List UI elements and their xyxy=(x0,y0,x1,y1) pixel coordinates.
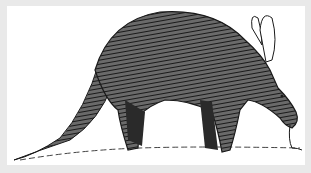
aardvark-illustration xyxy=(7,6,305,165)
image-frame: Pen-and-ink drawing of an aardvark stand… xyxy=(7,6,305,165)
